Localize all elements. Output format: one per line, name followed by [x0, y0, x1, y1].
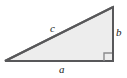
- vertical-leg-label-b: b: [116, 27, 122, 38]
- right-triangle-figure: c a b: [0, 0, 127, 78]
- horizontal-leg-label-a: a: [59, 64, 65, 75]
- hypotenuse-label-c: c: [50, 23, 55, 34]
